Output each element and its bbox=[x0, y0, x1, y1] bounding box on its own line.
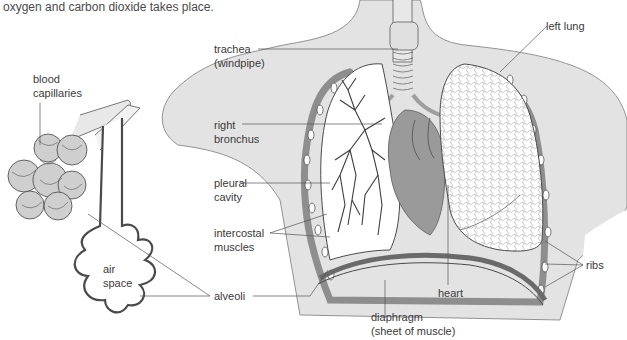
label-trachea-line1: trachea bbox=[214, 42, 251, 56]
label-diaphragm-line2: (sheet of muscle) bbox=[371, 324, 455, 338]
label-intercostal-line1: intercostal bbox=[214, 226, 264, 240]
larynx bbox=[390, 22, 418, 50]
label-blood-capillaries-line2: capillaries bbox=[33, 86, 82, 100]
label-pleural-cavity-line1: pleural bbox=[214, 176, 247, 190]
label-air-space-line2: space bbox=[103, 276, 132, 290]
label-diaphragm-line1: diaphragm bbox=[371, 310, 423, 324]
label-trachea-line2: (windpipe) bbox=[214, 56, 265, 70]
label-right-bronchus-line1: right bbox=[214, 118, 235, 132]
label-heart: heart bbox=[438, 286, 463, 300]
label-air-space-line1: air bbox=[103, 262, 115, 276]
label-blood-capillaries-line1: blood bbox=[33, 72, 60, 86]
label-left-lung: left lung bbox=[546, 19, 585, 33]
label-pleural-cavity-line2: cavity bbox=[214, 190, 242, 204]
lungs-illustration bbox=[0, 0, 627, 340]
label-ribs: ribs bbox=[586, 258, 604, 272]
label-intercostal-line2: muscles bbox=[214, 240, 254, 254]
alveolus-cluster bbox=[8, 100, 155, 312]
label-right-bronchus-line2: bronchus bbox=[214, 132, 259, 146]
label-alveoli: alveoli bbox=[214, 289, 245, 303]
